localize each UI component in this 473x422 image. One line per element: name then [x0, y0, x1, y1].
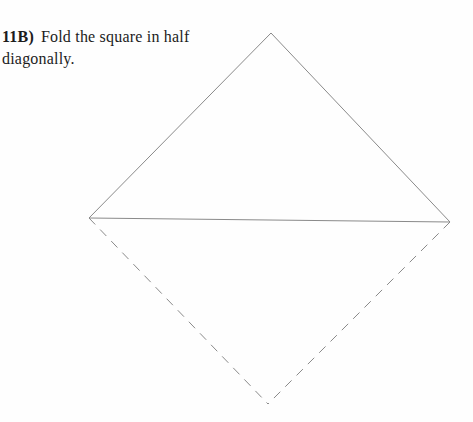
upper-right-edge — [271, 33, 450, 222]
upper-left-edge — [89, 33, 271, 218]
lower-left-edge — [89, 218, 268, 404]
fold-line — [89, 218, 450, 222]
lower-right-edge — [268, 222, 450, 404]
origami-fold-diagram — [0, 0, 473, 422]
page: 11B)Fold the square in half diagonally. — [0, 0, 473, 422]
